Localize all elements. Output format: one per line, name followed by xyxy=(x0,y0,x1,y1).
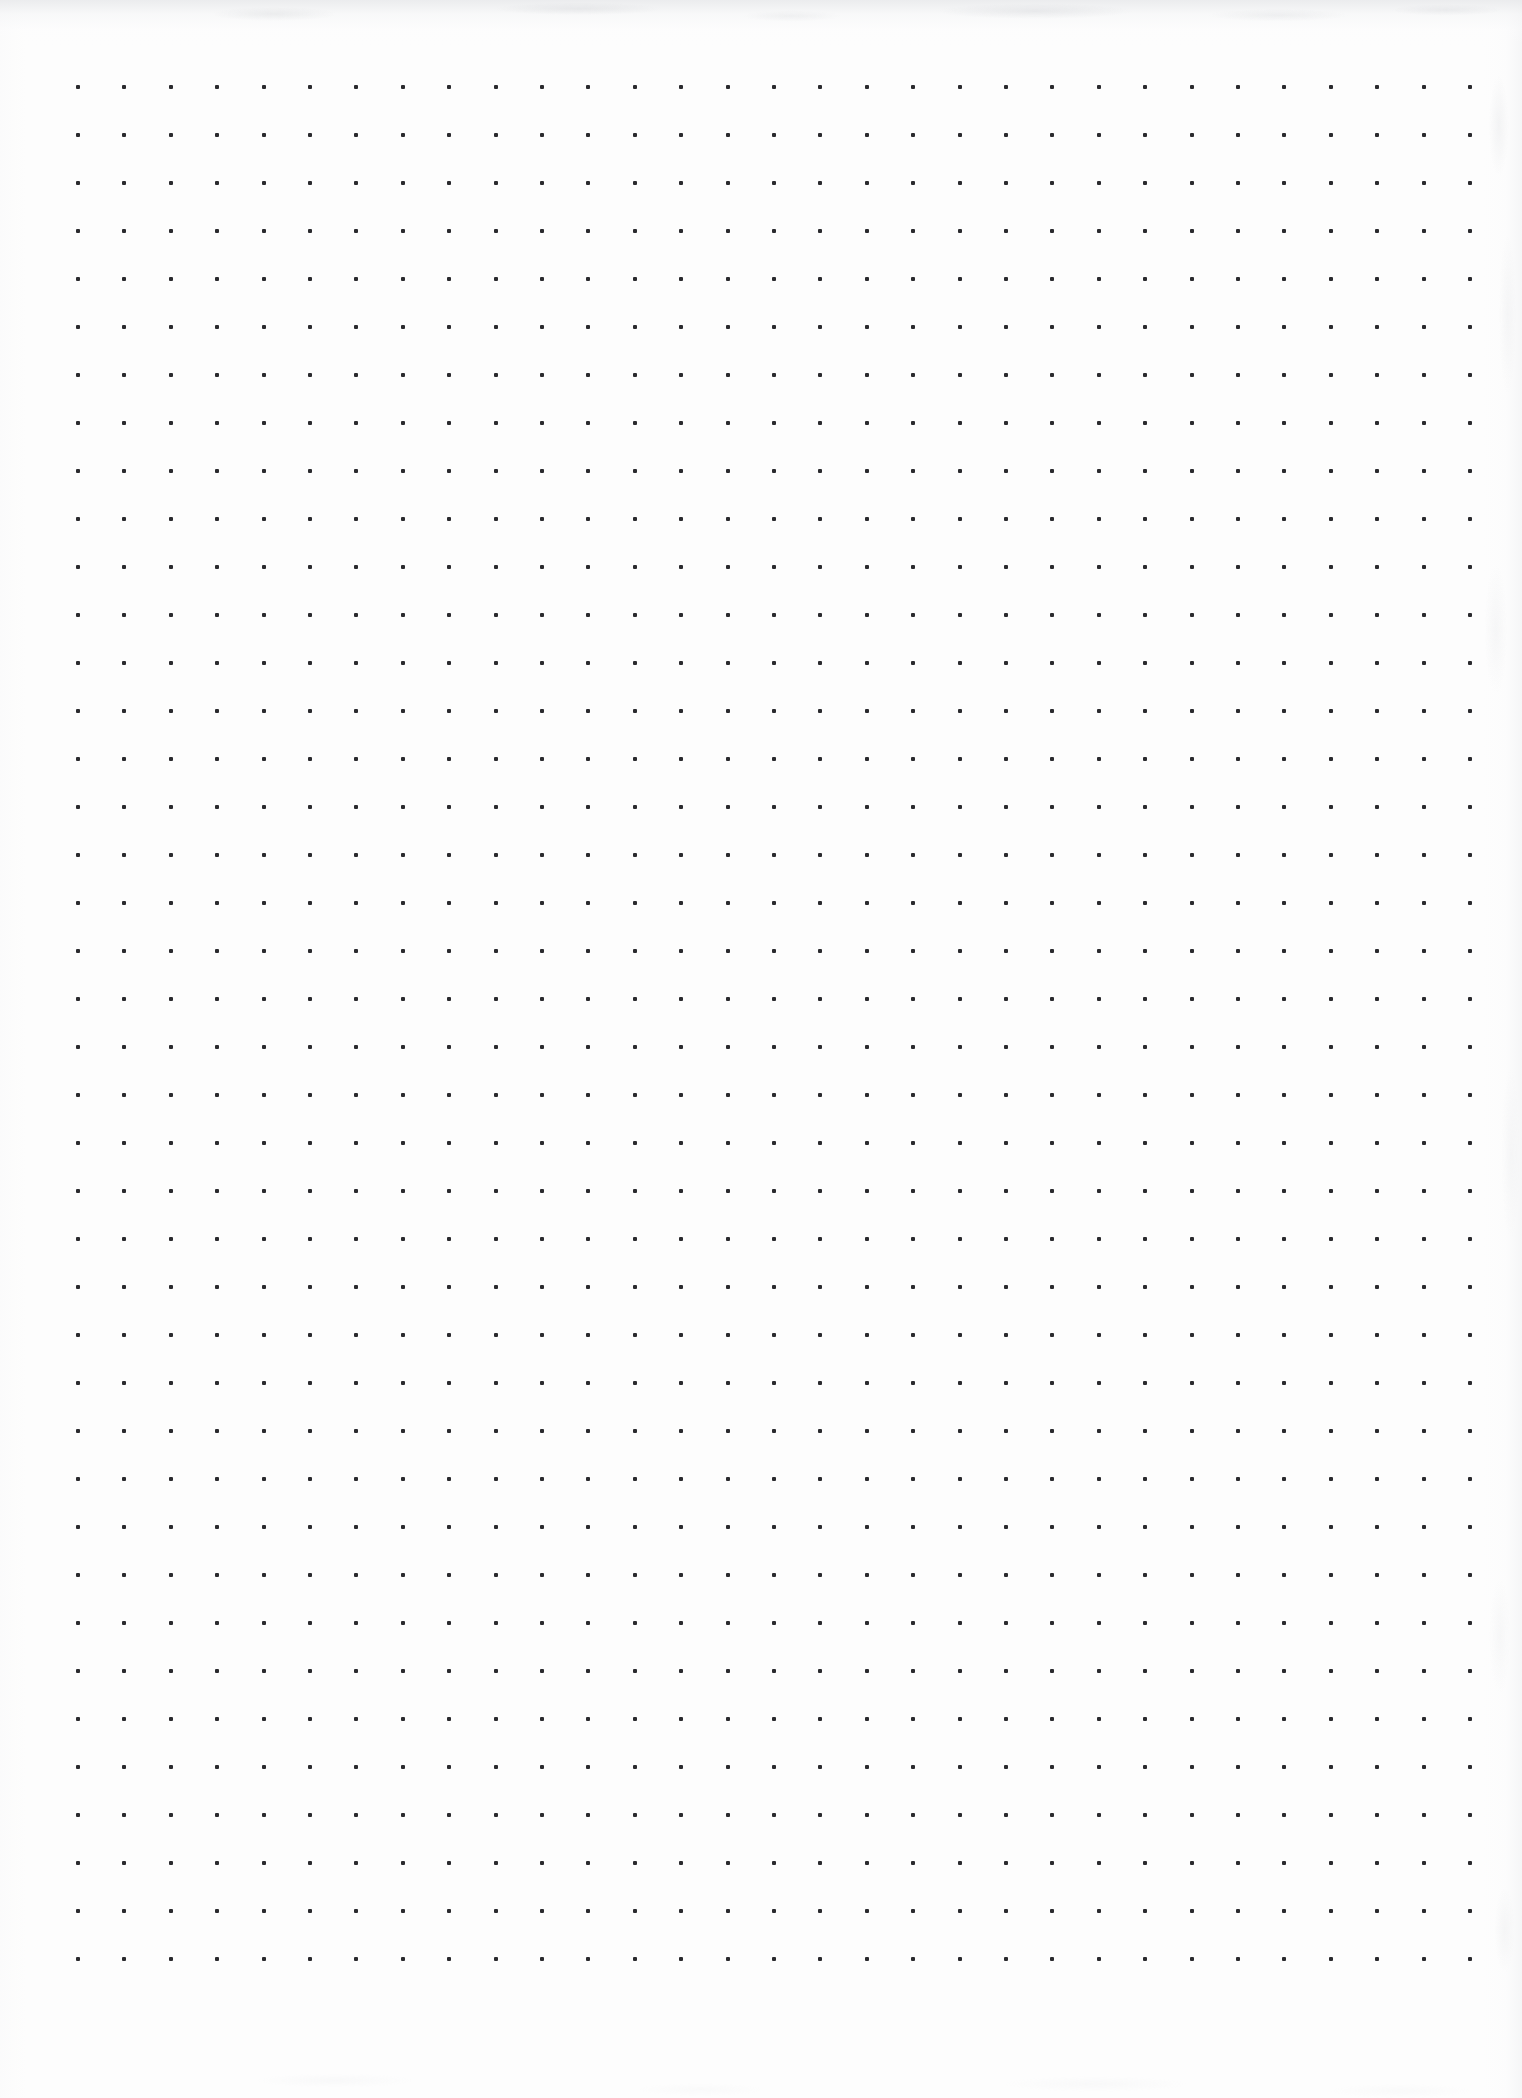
grid-dot xyxy=(1236,1669,1240,1673)
grid-dot xyxy=(679,757,683,761)
grid-dot xyxy=(1190,1957,1194,1961)
grid-dot xyxy=(494,229,498,233)
grid-dot xyxy=(911,1333,915,1337)
grid-dot xyxy=(726,901,730,905)
grid-dot xyxy=(494,181,498,185)
grid-dot xyxy=(262,997,266,1001)
grid-dot xyxy=(679,133,683,137)
grid-dot xyxy=(958,997,962,1001)
grid-dot xyxy=(726,1141,730,1145)
grid-dot xyxy=(354,469,358,473)
grid-dot xyxy=(1190,757,1194,761)
grid-dot xyxy=(772,1429,776,1433)
grid-dot xyxy=(76,613,80,617)
grid-dot xyxy=(1050,325,1054,329)
grid-dot xyxy=(76,181,80,185)
grid-dot xyxy=(1143,949,1147,953)
grid-dot xyxy=(354,949,358,953)
grid-dot xyxy=(1422,661,1426,665)
grid-dot xyxy=(1143,277,1147,281)
grid-dot xyxy=(401,1621,405,1625)
grid-dot xyxy=(215,1957,219,1961)
grid-dot xyxy=(215,757,219,761)
grid-dot xyxy=(1468,1813,1472,1817)
grid-dot xyxy=(1329,1765,1333,1769)
grid-dot xyxy=(726,1429,730,1433)
grid-dot xyxy=(354,1861,358,1865)
grid-dot xyxy=(1422,565,1426,569)
grid-dot xyxy=(76,1093,80,1097)
grid-dot xyxy=(818,757,822,761)
grid-dot xyxy=(122,373,126,377)
grid-dot xyxy=(679,1045,683,1049)
grid-dot xyxy=(1097,1957,1101,1961)
grid-dot xyxy=(1282,1285,1286,1289)
grid-dot xyxy=(1422,277,1426,281)
grid-dot xyxy=(169,805,173,809)
grid-dot xyxy=(586,1669,590,1673)
grid-dot xyxy=(911,1237,915,1241)
grid-dot xyxy=(1050,709,1054,713)
grid-dot xyxy=(354,85,358,89)
grid-dot xyxy=(540,1573,544,1577)
grid-dot xyxy=(1375,1525,1379,1529)
grid-dot xyxy=(401,1765,405,1769)
dot-grid xyxy=(0,0,1522,2098)
grid-dot xyxy=(122,1861,126,1865)
grid-dot xyxy=(1468,949,1472,953)
grid-dot xyxy=(679,613,683,617)
grid-dot xyxy=(354,1237,358,1241)
grid-dot xyxy=(169,1621,173,1625)
grid-dot xyxy=(308,1189,312,1193)
grid-dot xyxy=(354,517,358,521)
grid-dot xyxy=(401,133,405,137)
grid-dot xyxy=(911,1621,915,1625)
grid-dot xyxy=(494,469,498,473)
grid-dot xyxy=(818,997,822,1001)
grid-dot xyxy=(401,1717,405,1721)
grid-dot xyxy=(169,949,173,953)
grid-dot xyxy=(633,469,637,473)
grid-dot xyxy=(1329,1381,1333,1385)
grid-dot xyxy=(401,229,405,233)
grid-dot xyxy=(215,373,219,377)
grid-dot xyxy=(1375,85,1379,89)
grid-dot xyxy=(540,517,544,521)
grid-dot xyxy=(540,229,544,233)
grid-dot xyxy=(1282,949,1286,953)
grid-dot xyxy=(122,1285,126,1289)
grid-dot xyxy=(1190,277,1194,281)
grid-dot xyxy=(958,1717,962,1721)
grid-dot xyxy=(308,1141,312,1145)
grid-dot xyxy=(1004,949,1008,953)
grid-dot xyxy=(1097,757,1101,761)
grid-dot xyxy=(772,1621,776,1625)
grid-dot xyxy=(354,1621,358,1625)
grid-dot xyxy=(772,1333,776,1337)
grid-dot xyxy=(447,1525,451,1529)
grid-dot xyxy=(958,229,962,233)
grid-dot xyxy=(215,1429,219,1433)
grid-dot xyxy=(1468,1957,1472,1961)
grid-dot xyxy=(1329,613,1333,617)
grid-dot xyxy=(1329,181,1333,185)
grid-dot xyxy=(772,1957,776,1961)
grid-dot xyxy=(1143,1669,1147,1673)
grid-dot xyxy=(865,901,869,905)
grid-dot xyxy=(1143,805,1147,809)
grid-dot xyxy=(169,1141,173,1145)
grid-dot xyxy=(726,1861,730,1865)
grid-dot xyxy=(76,1525,80,1529)
grid-dot xyxy=(1329,517,1333,521)
grid-dot xyxy=(494,1957,498,1961)
grid-dot xyxy=(262,1285,266,1289)
grid-dot xyxy=(586,181,590,185)
grid-dot xyxy=(818,373,822,377)
grid-dot xyxy=(818,1237,822,1241)
grid-dot xyxy=(447,277,451,281)
grid-dot xyxy=(772,1909,776,1913)
grid-dot xyxy=(1190,565,1194,569)
grid-dot xyxy=(354,1717,358,1721)
grid-dot xyxy=(1282,1621,1286,1625)
grid-dot xyxy=(122,901,126,905)
